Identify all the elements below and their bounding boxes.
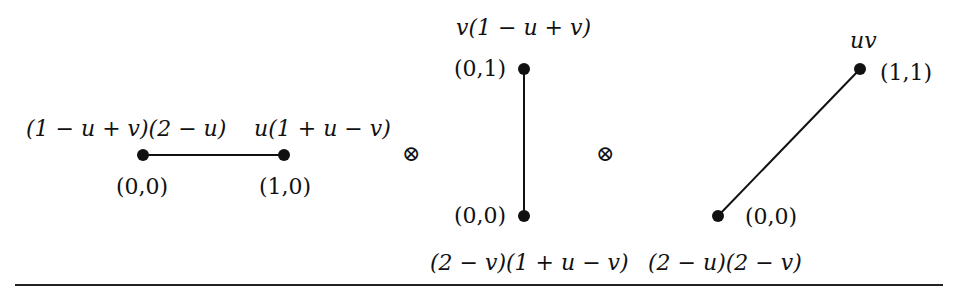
vertex-dot — [137, 149, 149, 161]
coord-label: (1,1) — [880, 62, 932, 84]
coord-label: (0,0) — [454, 205, 506, 227]
vertex-dot — [712, 210, 724, 222]
coord-label: (0,0) — [745, 206, 797, 228]
weight-label: uv — [850, 30, 877, 52]
weight-label: u(1 + u − v) — [254, 118, 391, 140]
vertex-dot — [518, 210, 530, 222]
tensor-product-icon: ⊗ — [596, 143, 614, 165]
coord-label: (0,1) — [454, 58, 506, 80]
weight-label: v(1 − u + v) — [456, 17, 591, 39]
coord-label: (1,0) — [259, 176, 311, 198]
weight-label: (2 − u)(2 − v) — [648, 252, 802, 274]
weight-label: (2 − v)(1 + u − v) — [430, 252, 629, 274]
vertex-dot — [278, 149, 290, 161]
vertex-dot — [854, 63, 866, 75]
coord-label: (0,0) — [116, 176, 168, 198]
edge-diagonal — [718, 69, 860, 216]
tensor-product-icon: ⊗ — [402, 143, 420, 165]
vertex-dot — [518, 63, 530, 75]
weight-label: (1 − u + v)(2 − u) — [26, 118, 226, 140]
